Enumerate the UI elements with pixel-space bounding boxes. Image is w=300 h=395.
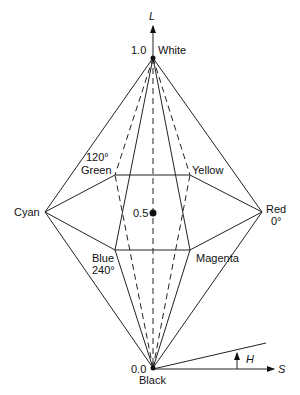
mid-value: 0.5 — [133, 207, 148, 219]
midpoint-dot — [150, 210, 157, 217]
red-label: Red — [266, 203, 286, 215]
green-angle: 120° — [86, 151, 109, 163]
green-label: Green — [81, 164, 112, 176]
yellow-label: Yellow — [192, 164, 223, 176]
red-angle: 0° — [271, 215, 282, 227]
h-label: H — [246, 353, 254, 365]
black-label: Black — [139, 374, 166, 386]
hexcone-diagram: L 1.0 White 120° Green Yellow Cyan Red 0… — [0, 0, 300, 395]
white-label: White — [158, 44, 186, 56]
blue-label: Blue — [92, 252, 114, 264]
s-axis-label: S — [278, 363, 286, 375]
l-axis-label: L — [149, 10, 155, 22]
top-value: 1.0 — [131, 44, 146, 56]
cyan-label: Cyan — [14, 206, 40, 218]
magenta-label: Magenta — [196, 252, 240, 264]
blue-angle: 240° — [92, 264, 115, 276]
